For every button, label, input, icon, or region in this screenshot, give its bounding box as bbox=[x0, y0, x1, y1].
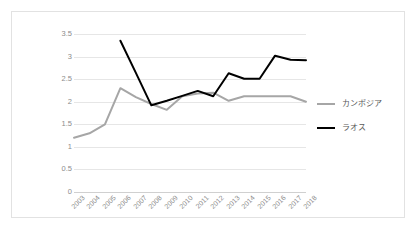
x-axis-tick-label: 2007 bbox=[132, 194, 148, 210]
y-axis-tick-label: 1.5 bbox=[46, 121, 72, 129]
x-axis-tick-label: 2010 bbox=[178, 194, 194, 210]
legend-item[interactable]: カンボジア bbox=[317, 98, 403, 110]
x-axis-tick-label: 2014 bbox=[240, 194, 256, 210]
x-axis-baseline bbox=[74, 192, 306, 193]
chart-legend: カンボジアラオス bbox=[317, 98, 403, 146]
x-axis-tick-label: 2011 bbox=[194, 194, 210, 210]
x-axis-tick-label: 2015 bbox=[256, 194, 272, 210]
chart-plot-wrapper: 00.511.522.533.5 20032004200520062007200… bbox=[12, 12, 406, 219]
x-axis-tick-label: 2009 bbox=[163, 194, 179, 210]
series-line bbox=[74, 88, 306, 138]
x-axis-tick-label: 2005 bbox=[101, 194, 117, 210]
y-axis-tick-label: 1 bbox=[46, 143, 72, 151]
x-axis-tick-label: 2006 bbox=[116, 194, 132, 210]
y-axis-tick-label: 3 bbox=[46, 53, 72, 61]
y-axis-tick-label: 0 bbox=[46, 188, 72, 196]
y-axis-tick-label: 2.5 bbox=[46, 75, 72, 83]
legend-item-label: ラオス bbox=[342, 124, 366, 132]
chart-container: 00.511.522.533.5 20032004200520062007200… bbox=[11, 11, 405, 218]
legend-item[interactable]: ラオス bbox=[317, 122, 403, 134]
x-axis-tick-label: 2018 bbox=[302, 194, 318, 210]
y-axis-tick-label: 0.5 bbox=[46, 166, 72, 174]
x-axis-tick-label: 2013 bbox=[225, 194, 241, 210]
x-axis-tick-label: 2008 bbox=[147, 194, 163, 210]
y-axis-tick-label: 2 bbox=[46, 98, 72, 106]
legend-line-swatch-icon bbox=[317, 127, 335, 129]
y-axis: 00.511.522.533.5 bbox=[42, 34, 72, 192]
y-axis-tick-label: 3.5 bbox=[46, 30, 72, 38]
x-axis: 2003200420052006200720082009201020112012… bbox=[74, 194, 306, 228]
x-axis-tick-label: 2017 bbox=[287, 194, 303, 210]
x-axis-tick-label: 2004 bbox=[85, 194, 101, 210]
plot-area bbox=[74, 34, 306, 192]
legend-item-label: カンボジア bbox=[342, 100, 382, 108]
x-axis-tick-label: 2012 bbox=[209, 194, 225, 210]
legend-line-swatch-icon bbox=[317, 103, 335, 105]
x-axis-tick-label: 2003 bbox=[70, 194, 86, 210]
x-axis-tick-label: 2016 bbox=[271, 194, 287, 210]
series-lines bbox=[74, 34, 306, 192]
